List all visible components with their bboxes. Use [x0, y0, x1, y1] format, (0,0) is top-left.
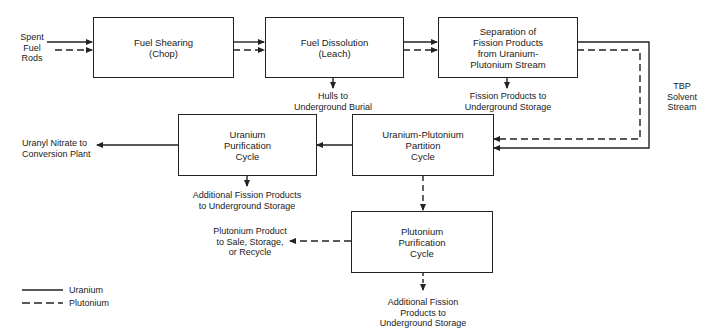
- fuel-dissolution-label: Fuel Dissolution (Leach): [301, 37, 369, 59]
- uranium-purification-box: Uranium Purification Cycle: [178, 114, 317, 176]
- uranium-purification-label: Uranium Purification Cycle: [224, 129, 271, 162]
- plutonium-product-label: Plutonium Product to Sale, Storage, or R…: [212, 226, 288, 258]
- additional-fission-products-pu-label: Additional Fission Products to Undergrou…: [367, 297, 479, 329]
- spent-fuel-label: Spent Fuel Rods: [14, 32, 50, 64]
- partition-box: Uranium-Plutonium Partition Cycle: [352, 114, 494, 176]
- fuel-dissolution-box: Fuel Dissolution (Leach): [265, 17, 404, 78]
- additional-fission-products-u-label: Additional Fission Products to Undergrou…: [183, 190, 311, 211]
- fuel-shearing-label: Fuel Shearing (Chop): [134, 37, 193, 59]
- fuel-shearing-box: Fuel Shearing (Chop): [93, 17, 234, 78]
- tbp-solvent-label: TBP Solvent Stream: [660, 81, 704, 113]
- legend-uranium-label: Uranium: [69, 285, 103, 296]
- separation-box: Separation of Fission Products from Uran…: [438, 17, 578, 78]
- plutonium-purification-label: Plutonium Purification Cycle: [399, 226, 446, 259]
- plutonium-purification-box: Plutonium Purification Cycle: [351, 211, 493, 273]
- separation-label: Separation of Fission Products from Uran…: [470, 26, 546, 70]
- fission-products-label: Fission Products to Underground Storage: [452, 91, 564, 112]
- legend-plutonium-label: Plutonium: [69, 298, 109, 309]
- hulls-label: Hulls to Underground Burial: [273, 91, 393, 112]
- uranyl-nitrate-label: Uranyl Nitrate to Conversion Plant: [22, 138, 102, 159]
- partition-label: Uranium-Plutonium Partition Cycle: [382, 129, 463, 162]
